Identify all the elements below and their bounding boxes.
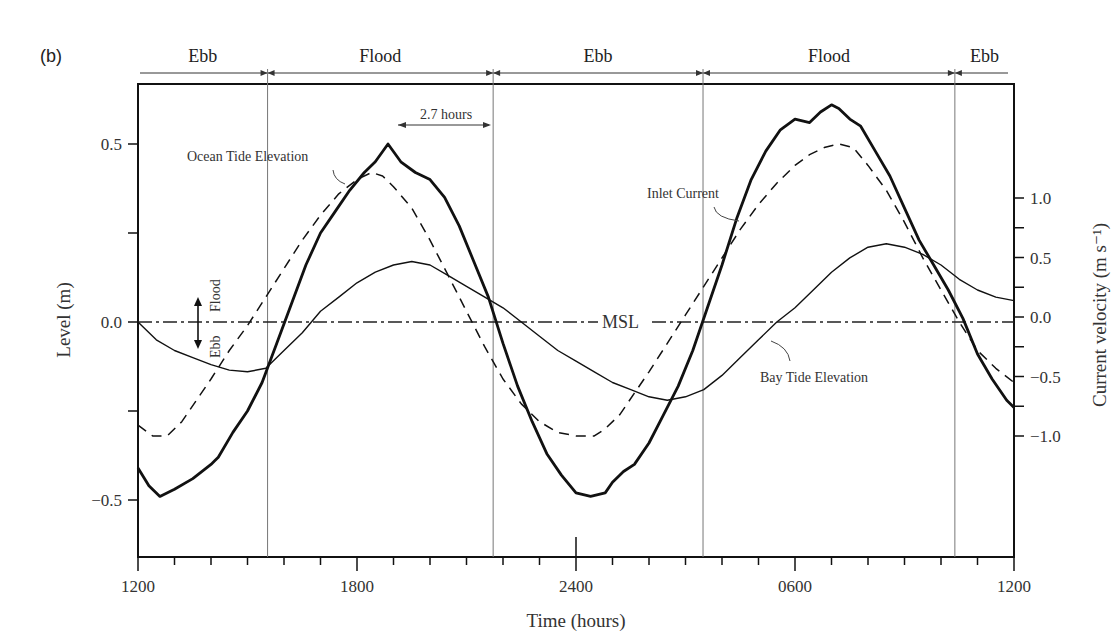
y-axis-title: Level (m) — [53, 282, 75, 357]
x-tick-label: 1200 — [121, 577, 155, 596]
phase-arrowhead-icon — [948, 70, 955, 76]
y-tick-label: 0.0 — [101, 313, 122, 332]
y-tick-label: −0.5 — [91, 491, 122, 510]
ocean-label-leader — [333, 170, 345, 184]
ebb-arrowhead-icon — [194, 340, 202, 349]
phase-arrowhead-icon — [493, 70, 500, 76]
x-tick-label: 0600 — [778, 577, 812, 596]
y2-tick-label: −0.5 — [1030, 368, 1061, 387]
phase-label-flood: Flood — [808, 46, 850, 66]
y-tick-label: 0.5 — [101, 135, 122, 154]
phase-arrowhead-icon — [955, 70, 962, 76]
x-tick-label: 2400 — [559, 577, 593, 596]
phase-label-ebb: Ebb — [188, 46, 217, 66]
x-tick-label: 1200 — [997, 577, 1031, 596]
tide-chart: (b) EbbFloodEbbFloodEbb −0.50.00.5 −1.0−… — [0, 0, 1119, 639]
phase-bar: EbbFloodEbbFloodEbb — [140, 46, 1008, 76]
left-axis: −0.50.00.5 — [91, 135, 138, 510]
lag-label: 2.7 hours — [420, 107, 472, 122]
x-axis-title: Time (hours) — [526, 610, 625, 632]
x-tick-label: 1800 — [340, 577, 374, 596]
series-inlet-current — [138, 144, 1014, 436]
ocean-tide-label: Ocean Tide Elevation — [187, 149, 308, 164]
msl-label: MSL — [602, 312, 639, 332]
phase-arrowhead-icon — [268, 70, 275, 76]
phase-arrowhead-icon — [486, 70, 493, 76]
bay-tide-label: Bay Tide Elevation — [760, 370, 868, 385]
phase-label-ebb: Ebb — [970, 46, 999, 66]
x-axis: 12001800240006001200 — [121, 537, 1031, 596]
y2-tick-label: −1.0 — [1030, 427, 1061, 446]
lag-arrowhead-right-icon — [483, 122, 491, 128]
phase-arrowhead-icon — [261, 70, 268, 76]
y2-tick-label: 1.0 — [1030, 189, 1051, 208]
y2-tick-label: 0.0 — [1030, 308, 1051, 327]
flood-direction-label: Flood — [208, 279, 223, 312]
lag-arrowhead-left-icon — [398, 122, 406, 128]
y2-tick-label: 0.5 — [1030, 249, 1051, 268]
panel-label: (b) — [40, 46, 62, 66]
bay-label-leader — [771, 341, 790, 361]
inlet-current-label: Inlet Current — [647, 186, 719, 201]
phase-label-flood: Flood — [359, 46, 401, 66]
phase-arrowhead-icon — [696, 70, 703, 76]
flood-arrowhead-icon — [194, 297, 202, 306]
ebb-direction-label: Ebb — [208, 335, 223, 358]
phase-label-ebb: Ebb — [584, 46, 613, 66]
y2-axis-title: Current velocity (m s⁻¹) — [1089, 223, 1111, 407]
right-axis: −1.0−0.50.00.51.0 — [1014, 189, 1061, 446]
phase-arrowhead-icon — [703, 70, 710, 76]
